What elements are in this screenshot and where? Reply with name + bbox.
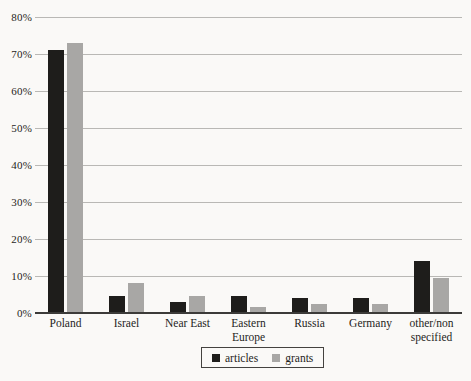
y-tick-label-40: 40%: [0, 159, 32, 172]
bar-russia-articles: [292, 298, 308, 313]
legend-label-grants: grants: [285, 352, 313, 364]
legend-label-articles: articles: [225, 352, 258, 364]
grants-swatch-icon: [272, 354, 280, 362]
x-category-label-poland: Poland: [31, 317, 100, 331]
y-tick-label-10: 10%: [0, 270, 32, 283]
gridline-80pct: [35, 17, 462, 18]
gridline-70pct: [35, 54, 462, 55]
gridline-30pct: [35, 202, 462, 203]
x-category-label-near-east: Near East: [153, 317, 222, 331]
y-tick-label-0: 0%: [0, 307, 32, 320]
x-category-label-russia: Russia: [275, 317, 344, 331]
chart-legend: articles grants: [201, 347, 324, 368]
legend-item-articles: articles: [212, 352, 258, 364]
legend-item-grants: grants: [272, 352, 313, 364]
bar-poland-grants: [67, 43, 83, 313]
x-axis-line: [35, 312, 462, 314]
y-tick-label-70: 70%: [0, 48, 32, 61]
gridline-40pct: [35, 165, 462, 166]
y-tick-label-60: 60%: [0, 85, 32, 98]
bar-other-non-specified-grants: [433, 278, 449, 313]
bar-israel-grants: [128, 283, 144, 313]
scanned-chart-page: 0%10%20%30%40%50%60%70%80% PolandIsraelN…: [0, 0, 471, 381]
articles-swatch-icon: [212, 354, 220, 362]
y-tick-label-50: 50%: [0, 122, 32, 135]
y-tick-label-30: 30%: [0, 196, 32, 209]
x-category-label-eastern-europe: Eastern Europe: [214, 317, 283, 344]
y-tick-label-80: 80%: [0, 11, 32, 24]
x-category-label-israel: Israel: [92, 317, 161, 331]
x-category-label-other-non-specified: other/non specified: [397, 317, 466, 344]
bar-germany-articles: [353, 298, 369, 313]
bar-israel-articles: [109, 296, 125, 313]
bar-eastern-europe-articles: [231, 296, 247, 313]
gridline-50pct: [35, 128, 462, 129]
gridline-10pct: [35, 276, 462, 277]
bar-other-non-specified-articles: [414, 261, 430, 313]
x-category-label-germany: Germany: [336, 317, 405, 331]
bar-near-east-grants: [189, 296, 205, 313]
gridline-60pct: [35, 91, 462, 92]
gridline-20pct: [35, 239, 462, 240]
bar-poland-articles: [48, 50, 64, 313]
bar-chart: 0%10%20%30%40%50%60%70%80% PolandIsraelN…: [0, 0, 471, 381]
y-tick-label-20: 20%: [0, 233, 32, 246]
